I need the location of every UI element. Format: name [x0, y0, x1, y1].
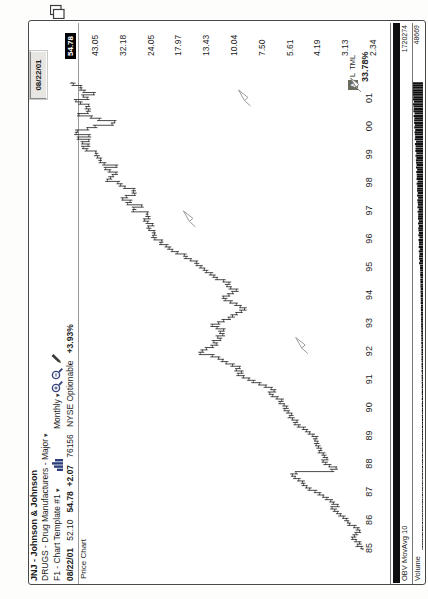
period-percent-change: 33.78%	[361, 51, 371, 82]
chart-flag-marker[interactable]	[239, 90, 251, 106]
volume-pane-value: 48669	[413, 25, 421, 44]
tml-button[interactable]: TML	[349, 55, 357, 70]
obv-pane-value: 1720274	[401, 25, 409, 52]
volume-pane-label: Volume	[414, 556, 422, 581]
volume-bars	[413, 83, 424, 549]
bottom-right-controls: A L TML	[348, 55, 358, 93]
price-chart-plot	[0, 0, 428, 599]
chart-flag-marker[interactable]	[183, 211, 195, 227]
monthly-ohlc-bars	[70, 82, 364, 550]
rotated-chart-canvas: JNJ - Johnson & Johnson DRUGS - Drug Man…	[0, 0, 428, 599]
volume-pane-separator	[412, 23, 413, 584]
obv-line-strip	[393, 23, 400, 583]
obv-pane-separator	[390, 23, 391, 584]
obv-pane-label: OBV MovAvg 10	[401, 526, 409, 581]
screenshot-root: JNJ - Johnson & Johnson DRUGS - Drug Man…	[0, 0, 428, 599]
chart-flag-marker[interactable]	[296, 338, 308, 354]
